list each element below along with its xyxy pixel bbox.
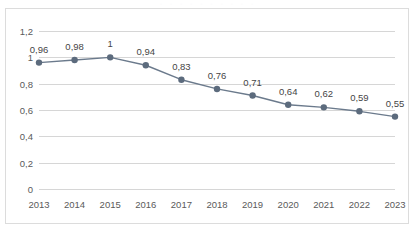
line-series-svg (39, 31, 395, 189)
data-point-marker[interactable] (392, 113, 398, 119)
data-point-marker[interactable] (285, 102, 291, 108)
x-axis-tick-label: 2022 (349, 199, 370, 210)
gridline (39, 189, 395, 190)
plot-area: 00,20,40,60,811,2 2013201420152016201720… (39, 31, 395, 189)
y-axis-tick-label: 0 (28, 184, 33, 195)
x-axis-tick-label: 2019 (242, 199, 263, 210)
data-point-marker[interactable] (71, 57, 77, 63)
x-axis-tick-label: 2017 (171, 199, 192, 210)
x-axis-tick-label: 2021 (313, 199, 334, 210)
y-axis-tick-label: 0,2 (20, 157, 33, 168)
data-point-marker[interactable] (249, 92, 255, 98)
x-axis-tick-label: 2018 (206, 199, 227, 210)
data-point-marker[interactable] (36, 59, 42, 65)
x-axis-tick-label: 2023 (384, 199, 405, 210)
chart-frame: 00,20,40,60,811,2 2013201420152016201720… (5, 8, 409, 224)
x-axis-tick-label: 2020 (278, 199, 299, 210)
y-axis-tick-label: 1,2 (20, 26, 33, 37)
y-axis-tick-label: 0,8 (20, 78, 33, 89)
data-point-marker[interactable] (356, 108, 362, 114)
cropped-title-remnant: ∙ ∙ ∙ ∙ ∙ ∙ ∙ ∙ ∙ ∙ (0, 0, 415, 7)
data-point-marker[interactable] (107, 54, 113, 60)
x-axis-tick-label: 2016 (135, 199, 156, 210)
data-point-marker[interactable] (178, 77, 184, 83)
data-point-marker[interactable] (214, 86, 220, 92)
x-axis-tick-label: 2014 (64, 199, 85, 210)
y-axis-tick-label: 0,6 (20, 105, 33, 116)
data-point-marker[interactable] (321, 104, 327, 110)
y-axis-tick-label: 0,4 (20, 131, 33, 142)
y-axis-tick-label: 1 (28, 52, 33, 63)
x-axis-tick-label: 2015 (100, 199, 121, 210)
data-point-marker[interactable] (143, 62, 149, 68)
x-axis-tick-label: 2013 (28, 199, 49, 210)
